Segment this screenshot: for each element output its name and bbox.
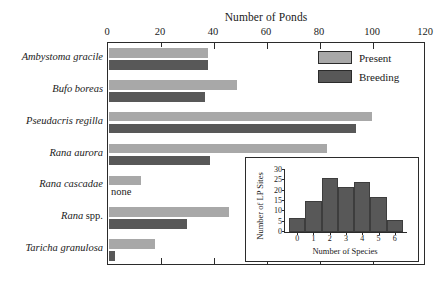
category-label: Pseudacris regilla (26, 115, 103, 126)
none-annotation: none (111, 186, 131, 197)
bar-present (108, 175, 142, 187)
inset-y-axis-tick-label: 30 (274, 165, 282, 174)
bar-present (108, 79, 238, 91)
x-axis-tick-label: 0 (104, 26, 109, 37)
inset-x-axis-tick-label: 0 (295, 234, 299, 243)
category-label: Rana aurora (49, 147, 103, 158)
x-axis-tick-label: 20 (155, 26, 166, 37)
legend-swatch-breeding-icon (318, 70, 352, 83)
inset-x-axis-tick-label: 4 (360, 234, 364, 243)
inset-y-axis-tick-mark (282, 190, 285, 191)
inset-x-axis-title: Number of Species (284, 246, 406, 256)
inset-x-axis-tick-label: 2 (328, 234, 332, 243)
x-axis-tick-label: 120 (417, 26, 433, 37)
inset-y-axis-tick-mark (282, 210, 285, 211)
inset-x-axis-tick-mark (330, 232, 331, 235)
category-label: Bufo boreas (52, 83, 103, 94)
inset-y-axis-tick-mark (282, 231, 285, 232)
category-label: Rana spp. (61, 210, 103, 221)
x-axis-tick-label: 60 (261, 26, 272, 37)
category-label: Ambystoma gracile (22, 51, 103, 62)
inset-x-axis-tick-mark (362, 232, 363, 235)
legend-item-breeding: Breeding (318, 68, 422, 85)
x-axis-tick-mark (214, 43, 215, 49)
inset-bar (305, 201, 321, 232)
category-label: Taricha granulosa (25, 242, 103, 253)
legend: Present Breeding (318, 49, 422, 87)
inset-bar (370, 197, 386, 232)
inset-x-axis-tick-label: 3 (344, 234, 348, 243)
category-label: Rana cascadae (39, 178, 103, 189)
inset-plot-area: 051015202530 0123456 (284, 170, 407, 233)
bar-breeding (108, 250, 116, 262)
inset-bar (387, 220, 403, 232)
inset-histogram: Number of LP Sites 051015202530 0123456 … (245, 157, 419, 262)
legend-item-present: Present (318, 49, 422, 66)
bar-breeding (108, 155, 211, 167)
inset-x-axis-tick-label: 5 (377, 234, 381, 243)
x-axis-tick-label: 100 (364, 26, 380, 37)
inset-y-axis-title: Number of LP Sites (255, 172, 265, 239)
inset-bar (322, 178, 338, 232)
legend-swatch-present-icon (318, 51, 352, 64)
inset-y-axis-tick-mark (282, 200, 285, 201)
inset-y-axis-tick-label: 10 (274, 206, 282, 215)
inset-x-axis-tick-mark (379, 232, 380, 235)
inset-y-axis-tick-mark (282, 221, 285, 222)
bar-present (108, 206, 230, 218)
x-axis-tick-mark (214, 258, 215, 264)
inset-y-axis-tick-label: 20 (274, 186, 282, 195)
bar-present (108, 238, 156, 250)
inset-y-axis-tick-label: 25 (274, 175, 282, 184)
x-axis-tick-label: 80 (314, 26, 325, 37)
bar-breeding (108, 59, 209, 71)
bar-present (108, 143, 328, 155)
inset-y-axis-tick-mark (282, 169, 285, 170)
main-plot-area: none Present Breeding Number of LP Sites… (107, 42, 425, 265)
inset-x-axis-tick-mark (297, 232, 298, 235)
inset-x-axis-tick-label: 1 (311, 234, 315, 243)
figure-bar-chart-pond-occupancy: Number of Ponds 020406080100120 none Pre… (0, 0, 435, 285)
x-axis-tick-mark (267, 43, 268, 49)
inset-bar (338, 187, 354, 232)
x-axis-title: Number of Ponds (107, 11, 425, 23)
inset-bar (354, 182, 370, 232)
inset-y-axis-tick-label: 15 (274, 196, 282, 205)
inset-x-axis-tick-mark (395, 232, 396, 235)
inset-y-axis-tick-mark (282, 179, 285, 180)
bar-breeding (108, 123, 357, 135)
x-axis-tick-label: 40 (208, 26, 219, 37)
inset-bar (289, 218, 305, 232)
bar-present (108, 111, 373, 123)
bar-breeding (108, 91, 206, 103)
x-axis-tick-mark (161, 258, 162, 264)
legend-label-present: Present (359, 52, 391, 64)
bar-breeding (108, 218, 188, 230)
inset-x-axis-tick-label: 6 (393, 234, 397, 243)
inset-x-axis-tick-mark (313, 232, 314, 235)
legend-label-breeding: Breeding (359, 71, 399, 83)
inset-x-axis-tick-mark (346, 232, 347, 235)
bar-present (108, 47, 209, 59)
